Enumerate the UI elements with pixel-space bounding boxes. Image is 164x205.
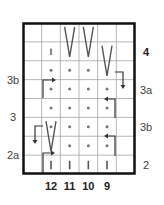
purl-dot-icon <box>87 106 90 109</box>
purl-dot-icon <box>68 125 71 128</box>
stitch-number-label: 10 <box>82 180 94 192</box>
purl-dot-icon <box>50 88 53 91</box>
arrowhead-icon <box>52 78 56 83</box>
purl-dot-icon <box>68 88 71 91</box>
stitch-number-label: 9 <box>104 180 110 192</box>
purl-dot-icon <box>50 69 53 72</box>
arrowhead-icon <box>33 140 38 144</box>
grid-lines <box>23 23 135 174</box>
purl-dot-icon <box>87 125 90 128</box>
row-label-left: 3 <box>10 111 16 123</box>
row-label-right: 4 <box>143 46 150 58</box>
arrowhead-icon <box>104 97 108 102</box>
arrow-left-icon <box>108 99 115 118</box>
row-label-left: 3b <box>7 74 19 86</box>
arrowhead-icon <box>121 85 126 89</box>
knitting-chart: 3b32a43a3b21211109 <box>0 0 164 205</box>
purl-dot-icon <box>50 125 53 128</box>
purl-dot-icon <box>68 69 71 72</box>
stitch-number-label: 12 <box>45 180 57 192</box>
purl-dot-icon <box>87 69 90 72</box>
arrowhead-icon <box>51 151 55 156</box>
row-label-right: 3a <box>140 84 153 96</box>
purl-dot-icon <box>50 106 53 109</box>
row-col-labels: 3b32a43a3b21211109 <box>7 46 153 192</box>
arrow-left-icon <box>108 136 115 156</box>
row-label-right: 2 <box>143 159 149 171</box>
row-label-left: 2a <box>7 149 20 161</box>
stitch-number-label: 11 <box>64 180 76 192</box>
row-label-right: 3b <box>140 121 152 133</box>
purl-dot-icon <box>106 125 109 128</box>
purl-dot-icon <box>68 144 71 147</box>
purl-dot-icon <box>87 88 90 91</box>
purl-dot-icon <box>106 144 109 147</box>
purl-dot-icon <box>106 106 109 109</box>
purl-dot-icon <box>87 144 90 147</box>
arrowhead-icon <box>104 134 108 139</box>
purl-dot-icon <box>68 106 71 109</box>
purl-dot-icon <box>106 88 109 91</box>
arrow-right-icon <box>43 153 51 174</box>
